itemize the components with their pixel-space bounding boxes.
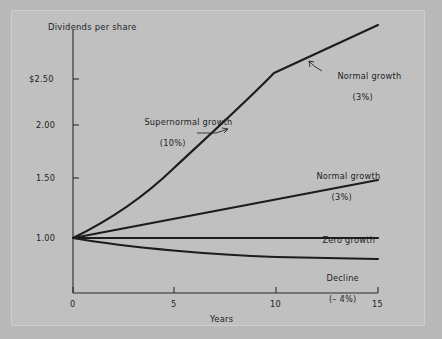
annotation-decline-line2: (– 4%) [329, 294, 357, 304]
annotation-decline-line1: Decline [327, 273, 359, 283]
annotation-decline: Decline (– 4%) [311, 262, 363, 315]
y-axis-tick-label-100: 1.00 [36, 233, 55, 244]
x-axis-tick-label-15: 15 [372, 299, 383, 310]
normal-upper-leader-line [309, 61, 322, 71]
annotation-normal-growth-middle: Normal growth (3%) [305, 160, 367, 213]
y-axis-tick-label-200: 2.00 [36, 120, 55, 131]
annotation-normal-growth-upper: Normal growth (3%) [326, 60, 388, 113]
chart-plot-area [0, 0, 442, 339]
y-axis-title: Dividends per share [48, 22, 137, 33]
annotation-supernormal-line1: Supernormal growth [144, 117, 232, 127]
y-axis-tick-label-150: 1.50 [36, 173, 55, 184]
chart-figure: Dividends per share $2.50 2.00 1.50 1.00… [0, 0, 442, 339]
x-axis-tick-label-10: 10 [270, 299, 281, 310]
annotation-normal-upper-line1: Normal growth [337, 71, 401, 81]
annotation-supernormal-growth: Supernormal growth (10%) [133, 106, 201, 159]
x-axis-tick-label-0: 0 [70, 299, 75, 310]
annotation-normal-upper-line2: (3%) [353, 92, 373, 102]
annotation-normal-middle-line1: Normal growth [316, 171, 380, 181]
x-axis-tick-label-5: 5 [171, 299, 176, 310]
x-axis-title: Years [210, 314, 233, 325]
annotation-zero-growth: Zero growth [311, 224, 373, 256]
annotation-supernormal-line2: (10%) [160, 138, 186, 148]
annotation-normal-middle-line2: (3%) [332, 192, 352, 202]
y-axis-tick-label-250: $2.50 [29, 74, 54, 85]
annotation-zero-growth-label: Zero growth [322, 235, 375, 245]
